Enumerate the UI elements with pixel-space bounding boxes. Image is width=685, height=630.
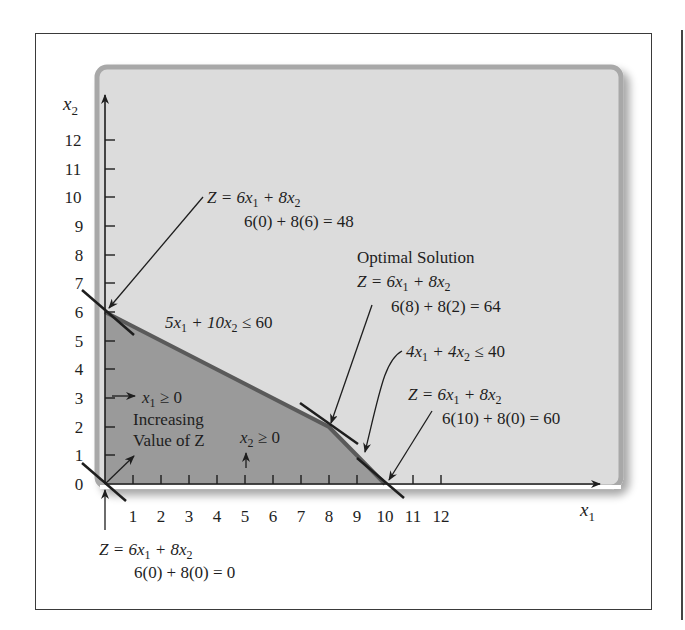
svg-text:6(8) + 8(2) = 64: 6(8) + 8(2) = 64 bbox=[391, 297, 501, 316]
lp-graph: 0 1 2 3 4 5 6 7 8 9 10 11 12 1 2 3 4 5 6… bbox=[0, 0, 685, 630]
svg-text:6: 6 bbox=[269, 507, 278, 526]
svg-text:6(0) + 8(6) = 48: 6(0) + 8(6) = 48 bbox=[244, 212, 354, 231]
svg-text:6(0) + 8(0) = 0: 6(0) + 8(0) = 0 bbox=[134, 563, 235, 582]
svg-text:10: 10 bbox=[65, 188, 82, 207]
svg-text:7: 7 bbox=[297, 507, 306, 526]
svg-text:3: 3 bbox=[75, 389, 84, 408]
svg-text:Optimal Solution: Optimal Solution bbox=[357, 248, 475, 267]
svg-text:5: 5 bbox=[75, 332, 84, 351]
y-axis-label: x2 bbox=[62, 93, 78, 118]
svg-text:8: 8 bbox=[325, 507, 334, 526]
svg-text:12: 12 bbox=[65, 131, 82, 150]
svg-text:2: 2 bbox=[75, 418, 84, 437]
svg-text:12: 12 bbox=[433, 507, 450, 526]
nonneg-x1-label: x1 ≥ 0 bbox=[141, 388, 182, 410]
y-tick-labels: 0 1 2 3 4 5 6 7 8 9 10 11 12 bbox=[65, 131, 84, 494]
svg-text:9: 9 bbox=[353, 507, 362, 526]
svg-text:3: 3 bbox=[185, 507, 194, 526]
svg-text:6: 6 bbox=[75, 303, 84, 322]
x-tick-labels: 1 2 3 4 5 6 7 8 9 10 11 12 bbox=[129, 507, 450, 526]
svg-text:4: 4 bbox=[213, 507, 222, 526]
svg-text:11: 11 bbox=[65, 160, 81, 179]
svg-text:1: 1 bbox=[129, 507, 138, 526]
nonneg-x2-label: x2 ≥ 0 bbox=[239, 428, 280, 450]
svg-text:11: 11 bbox=[405, 507, 421, 526]
corner-point-origin-label: Z = 6x1 + 8x2 6(0) + 8(0) = 0 bbox=[99, 540, 235, 582]
svg-text:2: 2 bbox=[157, 507, 166, 526]
svg-text:0: 0 bbox=[75, 475, 84, 494]
svg-text:Z = 6x1 + 8x2: Z = 6x1 + 8x2 bbox=[99, 540, 193, 562]
svg-text:4: 4 bbox=[75, 360, 84, 379]
svg-text:9: 9 bbox=[75, 217, 84, 236]
svg-text:1: 1 bbox=[75, 446, 84, 465]
constraint-2-label: 4x1 + 4x2 ≤ 40 bbox=[406, 342, 505, 364]
x-axis-label: x1 bbox=[579, 499, 595, 524]
svg-text:10: 10 bbox=[377, 507, 394, 526]
svg-text:5: 5 bbox=[241, 507, 250, 526]
svg-text:8: 8 bbox=[75, 246, 84, 265]
svg-text:6(10) + 8(0) = 60: 6(10) + 8(0) = 60 bbox=[442, 409, 560, 428]
